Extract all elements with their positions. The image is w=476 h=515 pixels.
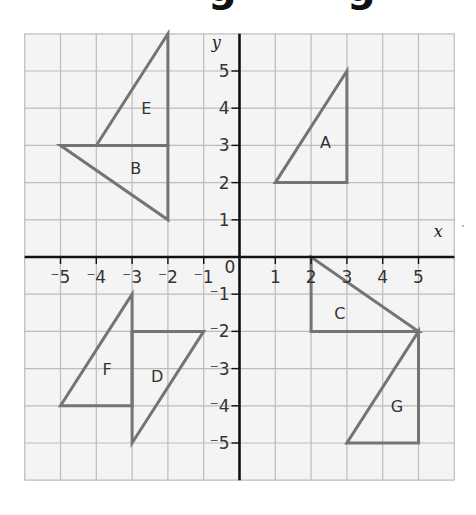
x-tick-label: 2 — [306, 267, 317, 287]
x-tick-label: 1 — [270, 267, 281, 287]
y-tick-label: 4 — [219, 98, 230, 118]
shape-label-a: A — [320, 133, 331, 152]
y-tick-label: ⁻1 — [210, 284, 230, 304]
origin-label: 0 — [224, 257, 235, 277]
y-tick-label: 5 — [219, 61, 230, 81]
y-tick-label: 2 — [219, 173, 230, 193]
shape-label-g: G — [391, 397, 403, 416]
shape-label-b: B — [130, 159, 141, 178]
x-tick-label: ⁻3 — [122, 267, 142, 287]
stray-dot — [462, 225, 464, 227]
coordinate-grid: ABCDEFG⁻5⁻4⁻3⁻2⁻11234554321⁻1⁻2⁻3⁻4⁻5xy0 — [0, 0, 476, 515]
y-axis-label: y — [211, 33, 222, 52]
shape-label-d: D — [151, 367, 163, 386]
y-tick-label: 3 — [219, 135, 230, 155]
shape-label-e: E — [141, 99, 151, 118]
x-tick-label: ⁻2 — [158, 267, 178, 287]
shape-label-c: C — [334, 304, 345, 323]
shape-label-f: F — [102, 360, 111, 379]
y-tick-label: ⁻4 — [210, 396, 230, 416]
y-tick-label: ⁻3 — [210, 359, 230, 379]
y-tick-label: ⁻2 — [210, 321, 230, 341]
y-tick-label: 1 — [219, 210, 230, 230]
x-tick-label: 4 — [377, 267, 388, 287]
x-tick-label: ⁻5 — [51, 267, 71, 287]
x-axis-label: x — [434, 222, 443, 241]
y-tick-label: ⁻5 — [210, 433, 230, 453]
x-tick-label: 5 — [413, 267, 424, 287]
x-tick-label: ⁻4 — [86, 267, 106, 287]
x-tick-label: 3 — [341, 267, 352, 287]
